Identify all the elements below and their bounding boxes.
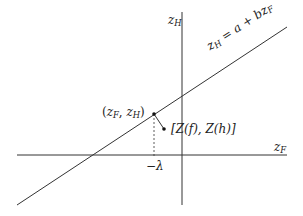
observed-point-marker [162, 127, 166, 131]
x-axis-label-sub: F [280, 145, 286, 155]
lambda-tick-label: −λ [146, 160, 164, 172]
paren-close: ) [140, 105, 145, 119]
coord-b-sub: H [133, 110, 140, 120]
diagram-canvas [0, 0, 303, 216]
regression-line [17, 27, 287, 205]
x-axis-label: zF [274, 141, 286, 154]
point-on-line-marker [152, 112, 156, 116]
residual-connector [154, 114, 164, 129]
y-axis-label: zH [168, 14, 182, 27]
observed-point-label: [Z(f), Z(h)] [171, 123, 236, 135]
y-axis-label-sub: H [174, 18, 181, 28]
point-on-line-label: (zF, zH) [102, 106, 145, 119]
